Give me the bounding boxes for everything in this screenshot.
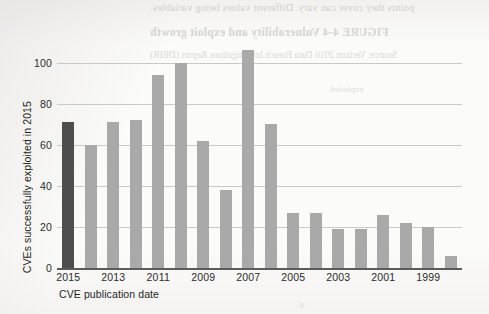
x-tick-label: 2001: [371, 271, 395, 283]
bar-2012: [130, 120, 142, 268]
bar-2006: [265, 124, 277, 268]
bar-slot: [147, 36, 170, 268]
x-axis-tick-labels: 201520132011200920072005200320011999: [57, 271, 462, 287]
y-axis-tick-labels: 020406080100: [18, 36, 52, 268]
bar-2003: [332, 229, 344, 268]
bar-series: [57, 36, 462, 268]
bar-2015: [62, 122, 74, 268]
bar-slot: [260, 36, 283, 268]
bar-2000: [400, 223, 412, 268]
bar-2014: [85, 145, 97, 268]
x-tick-label: 2005: [281, 271, 305, 283]
x-tick-label: 2013: [101, 271, 125, 283]
bar-chart-figure: CVEs successfully exploited in 2015 0204…: [0, 0, 489, 314]
bar-slot: [350, 36, 373, 268]
bar-slot: [80, 36, 103, 268]
bar-slot: [305, 36, 328, 268]
x-axis-title: CVE publication date: [59, 288, 159, 300]
bar-slot: [395, 36, 418, 268]
bar-slot: [372, 36, 395, 268]
bar-1998: [445, 256, 457, 268]
bar-2005: [287, 213, 299, 268]
bar-2011: [152, 75, 164, 268]
bar-2004: [310, 213, 322, 268]
x-tick-label: 2007: [236, 271, 260, 283]
bar-1999: [422, 227, 434, 268]
bar-2009: [197, 141, 209, 268]
bar-2001: [377, 215, 389, 268]
x-tick-label: 2009: [191, 271, 215, 283]
y-tick-label: 40: [40, 180, 52, 192]
bar-2013: [107, 122, 119, 268]
plot-area: [57, 36, 462, 268]
bar-2010: [175, 63, 187, 268]
x-tick-label: 2003: [326, 271, 350, 283]
bar-2008: [220, 190, 232, 268]
bar-slot: [237, 36, 260, 268]
bar-slot: [440, 36, 463, 268]
bar-slot: [192, 36, 215, 268]
y-tick-label: 0: [46, 262, 52, 274]
x-tick-label: 2011: [147, 271, 170, 283]
bar-slot: [125, 36, 148, 268]
bar-2007: [242, 50, 254, 268]
x-tick-label: 2015: [56, 271, 80, 283]
y-tick-label: 20: [40, 221, 52, 233]
x-tick-label: 1999: [416, 271, 440, 283]
bar-2002: [355, 229, 367, 268]
bar-slot: [215, 36, 238, 268]
bar-slot: [57, 36, 80, 268]
bar-slot: [170, 36, 193, 268]
bar-slot: [417, 36, 440, 268]
y-tick-label: 100: [34, 57, 52, 69]
y-tick-label: 80: [40, 98, 52, 110]
bar-slot: [282, 36, 305, 268]
bar-slot: [327, 36, 350, 268]
y-tick-label: 60: [40, 139, 52, 151]
bar-slot: [102, 36, 125, 268]
x-axis-line: [57, 268, 462, 270]
